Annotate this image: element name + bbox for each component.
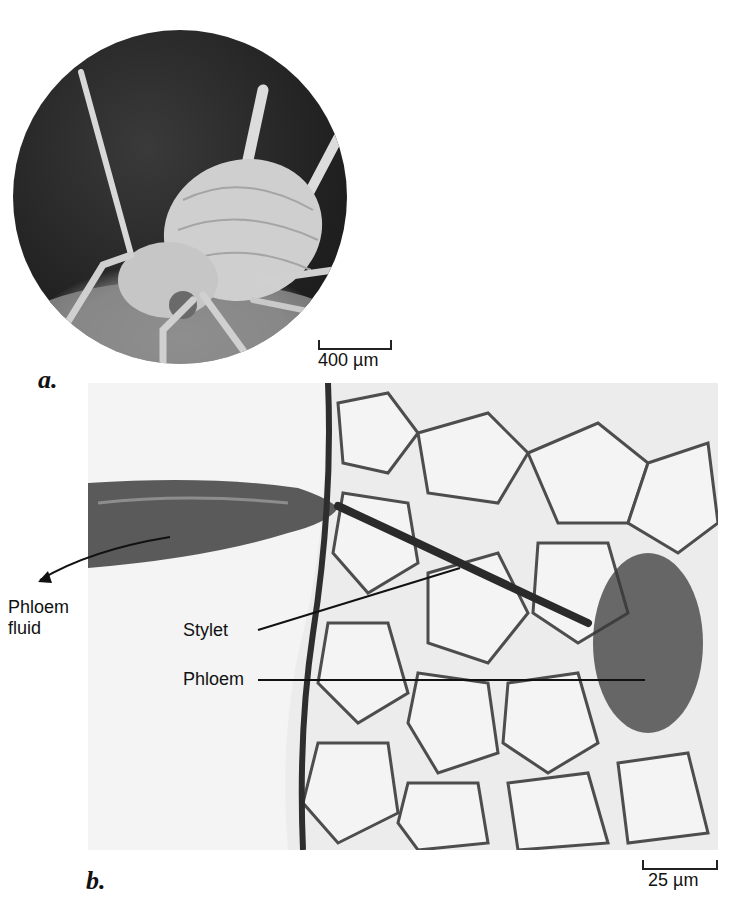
phloem-fluid-arrow <box>40 537 170 580</box>
phloem-fluid-label-line1: Phloem <box>8 597 69 618</box>
phloem-label: Phloem <box>183 669 244 690</box>
phloem-fluid-label: Phloem fluid <box>8 597 69 639</box>
panel-b-label: b. <box>86 866 106 896</box>
scale-bar-b: 25 µm <box>642 860 718 891</box>
stylet-leader-line <box>258 568 460 630</box>
scale-bar-line <box>642 860 718 870</box>
scale-bar-b-label: 25 µm <box>648 870 718 891</box>
arrowhead-icon <box>38 571 52 583</box>
stylet-label: Stylet <box>183 620 228 641</box>
callout-lines <box>0 0 735 903</box>
phloem-fluid-label-line2: fluid <box>8 618 69 639</box>
